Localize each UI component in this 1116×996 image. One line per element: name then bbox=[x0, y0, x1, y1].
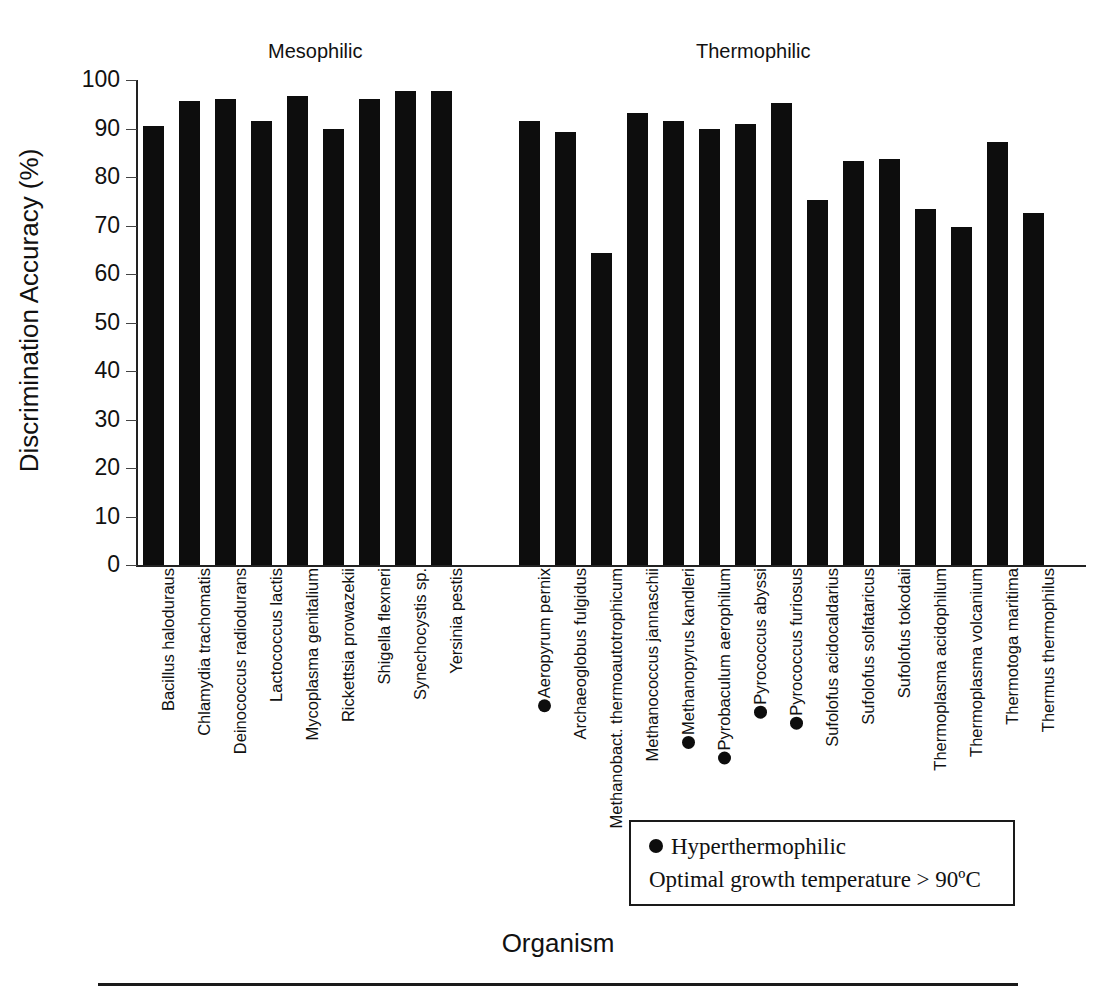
y-axis-tick bbox=[126, 565, 137, 566]
x-axis-tick-label-text: Thermotoga maritima bbox=[1003, 568, 1021, 725]
bar[interactable] bbox=[323, 129, 344, 566]
legend-entry-hyperthermophilic: Hyperthermophilic bbox=[649, 831, 1013, 864]
y-axis-tick bbox=[126, 80, 137, 81]
bar[interactable] bbox=[519, 121, 540, 565]
x-axis-tick-label: Shigella flexneri bbox=[376, 568, 393, 684]
x-axis-tick-label: Mycoplasma genitalium bbox=[304, 568, 321, 740]
hyperthermophilic-marker-icon bbox=[790, 717, 803, 730]
hyperthermophilic-marker-icon bbox=[718, 752, 731, 765]
bar[interactable] bbox=[987, 142, 1008, 565]
x-axis-tick-label: Chlamydia trachomatis bbox=[196, 568, 213, 736]
x-axis-tick-label: Sufolofus solfataricus bbox=[860, 568, 877, 725]
y-axis-tick bbox=[126, 226, 137, 227]
bar[interactable] bbox=[287, 96, 308, 565]
x-axis-line bbox=[136, 565, 1086, 567]
y-axis-tick bbox=[126, 274, 137, 275]
bar[interactable] bbox=[143, 126, 164, 565]
y-axis-tick-labels: 1009080706050403020100 bbox=[55, 0, 120, 996]
x-axis-tick-label: Thermoplasma acidophilum bbox=[932, 568, 949, 771]
bar[interactable] bbox=[915, 209, 936, 565]
x-axis-tick-label: Pyrococcus furiosus bbox=[788, 568, 805, 730]
x-axis-tick-label-text: Archaeoglobus fulgidus bbox=[571, 568, 589, 740]
x-axis-tick-label: Deinococcus radiodurans bbox=[232, 568, 249, 754]
x-axis-tick-label-text: Thermoplasma volcanium bbox=[967, 568, 985, 757]
bar[interactable] bbox=[251, 121, 272, 565]
x-axis-tick-label: Aeropyrum pernix bbox=[536, 568, 553, 712]
bar[interactable] bbox=[591, 253, 612, 565]
bar[interactable] bbox=[735, 124, 756, 565]
y-axis-tick-label: 60 bbox=[62, 262, 120, 285]
y-axis-tick-label: 80 bbox=[62, 165, 120, 188]
y-axis-title: Discrimination Accuracy (%) bbox=[0, 0, 60, 620]
x-axis-tick-label: Thermotoga maritima bbox=[1004, 568, 1021, 725]
legend-box: Hyperthermophilic Optimal growth tempera… bbox=[629, 820, 1015, 906]
x-axis-tick-label: Rickettsia prowazekii bbox=[340, 568, 357, 722]
y-axis-tick-label: 100 bbox=[62, 68, 120, 91]
y-axis-tick bbox=[126, 323, 137, 324]
x-axis-tick-label: Archaeoglobus fulgidus bbox=[572, 568, 589, 740]
y-axis-tick bbox=[126, 468, 137, 469]
x-axis-tick-label: Methanopyrus kandleri bbox=[680, 568, 697, 749]
x-axis-tick-label-text: Yersinia pestis bbox=[447, 568, 465, 674]
legend-label: Hyperthermophilic bbox=[671, 834, 846, 859]
x-axis-tick-label: Sufolofus acidocaldarius bbox=[824, 568, 841, 747]
x-axis-title: Organism bbox=[0, 928, 1116, 959]
x-axis-tick-label: Pyrobaculum aerophilum bbox=[716, 568, 733, 765]
bar[interactable] bbox=[431, 91, 452, 565]
x-axis-tick-label: Sufolofus tokodaii bbox=[896, 568, 913, 698]
bar[interactable] bbox=[771, 103, 792, 565]
y-axis-tick-label: 90 bbox=[62, 117, 120, 140]
x-axis-tick-label-text: Pyrococcus furiosus bbox=[787, 568, 805, 716]
x-axis-tick-label-text: Sufolofus solfataricus bbox=[859, 568, 877, 725]
y-axis-tick bbox=[126, 177, 137, 178]
bar[interactable] bbox=[879, 159, 900, 565]
y-axis-title-text: Discrimination Accuracy (%) bbox=[15, 148, 46, 472]
x-axis-tick-label-text: Pyrococcus abyssi bbox=[751, 568, 769, 705]
bar[interactable] bbox=[807, 200, 828, 565]
x-axis-tick-label-text: Chlamydia trachomatis bbox=[195, 568, 213, 736]
x-axis-tick-label-text: Synechocystis sp. bbox=[411, 568, 429, 700]
bar[interactable] bbox=[555, 132, 576, 565]
bar[interactable] bbox=[1023, 213, 1044, 565]
y-axis-tick-label: 40 bbox=[62, 359, 120, 382]
x-axis-tick-label: Synechocystis sp. bbox=[412, 568, 429, 700]
x-axis-tick-label-text: Pyrobaculum aerophilum bbox=[715, 568, 733, 751]
bar[interactable] bbox=[951, 227, 972, 565]
y-axis-tick bbox=[126, 420, 137, 421]
filled-circle-icon bbox=[649, 839, 663, 853]
x-axis-tick-label-text: Bacillus haloduraus bbox=[159, 568, 177, 711]
y-axis-tick bbox=[126, 517, 137, 518]
hyperthermophilic-marker-icon bbox=[538, 699, 551, 712]
legend-description: Optimal growth temperature > 90ºC bbox=[649, 864, 1013, 897]
x-axis-tick-label-text: Shigella flexneri bbox=[375, 568, 393, 684]
y-axis-tick-label: 20 bbox=[62, 456, 120, 479]
x-axis-tick-label: Pyrococcus abyssi bbox=[752, 568, 769, 719]
x-axis-tick-label-text: Deinococcus radiodurans bbox=[231, 568, 249, 754]
bars-container bbox=[137, 80, 1086, 565]
hyperthermophilic-marker-icon bbox=[682, 736, 695, 749]
x-axis-tick-label-text: Lactococcus lactis bbox=[267, 568, 285, 702]
x-axis-tick-label-text: Sufolofus acidocaldarius bbox=[823, 568, 841, 747]
group-header-thermophilic: Thermophilic bbox=[696, 40, 810, 63]
bar[interactable] bbox=[627, 113, 648, 565]
x-axis-tick-label-text: Thermus thermophilus bbox=[1039, 568, 1057, 732]
y-axis-tick-label: 10 bbox=[62, 505, 120, 528]
bar[interactable] bbox=[395, 91, 416, 565]
bar[interactable] bbox=[843, 161, 864, 565]
x-axis-tick-label: Methanobact. thermoautotrophicum bbox=[608, 568, 625, 828]
y-axis-tick-label: 70 bbox=[62, 214, 120, 237]
bar[interactable] bbox=[663, 121, 684, 565]
y-axis-tick-label: 30 bbox=[62, 408, 120, 431]
bar[interactable] bbox=[215, 99, 236, 565]
group-header-mesophilic: Mesophilic bbox=[268, 40, 362, 63]
bar[interactable] bbox=[179, 101, 200, 565]
x-axis-tick-label: Bacillus haloduraus bbox=[160, 568, 177, 711]
y-axis-tick bbox=[126, 129, 137, 130]
bar[interactable] bbox=[699, 129, 720, 565]
x-axis-tick-label-text: Aeropyrum pernix bbox=[535, 568, 553, 698]
x-axis-tick-label-text: Sufolofus tokodaii bbox=[895, 568, 913, 698]
x-axis-tick-label: Thermus thermophilus bbox=[1040, 568, 1057, 732]
x-axis-tick-label: Thermoplasma volcanium bbox=[968, 568, 985, 757]
x-axis-tick-label: Lactococcus lactis bbox=[268, 568, 285, 702]
bar[interactable] bbox=[359, 99, 380, 565]
